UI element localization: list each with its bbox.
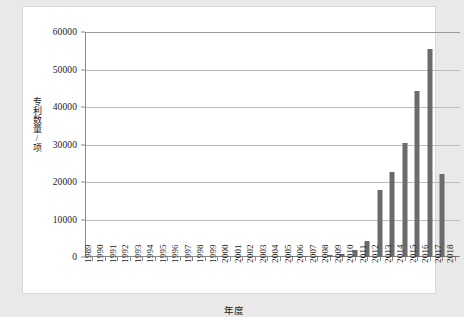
y-axis-tick-labels: 0100002000030000400005000060000 xyxy=(23,7,85,258)
x-axis-tick-labels: 1989199019911992199319941995199619971998… xyxy=(86,263,460,299)
x-axis-tick-label: 1992 xyxy=(120,244,130,263)
y-axis-tick-label: 10000 xyxy=(53,215,77,225)
y-axis-tick-label: 20000 xyxy=(53,177,77,187)
x-axis-tick-label: 2004 xyxy=(270,244,280,263)
x-axis-tick-label: 2001 xyxy=(233,244,243,263)
x-axis-tick-label: 1998 xyxy=(195,244,205,263)
x-axis-tick-label: 2013 xyxy=(383,244,393,263)
x-axis-tick-label: 1996 xyxy=(170,244,180,263)
bar xyxy=(427,49,432,257)
y-axis-tick-label: 60000 xyxy=(53,27,77,37)
y-axis-tick-label: 40000 xyxy=(53,102,77,112)
x-axis-tick-label: 2012 xyxy=(370,244,380,263)
x-axis-tick-label: 1993 xyxy=(133,244,143,263)
y-axis-tick-label: 50000 xyxy=(53,65,77,75)
x-axis-tick-label: 2018 xyxy=(445,244,455,263)
x-axis-tick-label: 1999 xyxy=(208,244,218,263)
x-axis-tick-label: 2016 xyxy=(420,244,430,263)
x-axis-tick-label: 2005 xyxy=(283,244,293,263)
x-axis-tick-label: 2017 xyxy=(433,244,443,263)
x-axis-tick-label: 1994 xyxy=(145,244,155,263)
x-axis-tick-label: 2015 xyxy=(408,244,418,263)
bar-series xyxy=(86,32,460,257)
bar xyxy=(415,91,420,257)
x-axis-tick-label: 2010 xyxy=(345,244,355,263)
bar xyxy=(402,143,407,257)
x-axis-title: 年度 xyxy=(224,303,244,317)
x-axis-tick-label: 2009 xyxy=(333,244,343,263)
x-axis-tick-label: 2011 xyxy=(358,245,368,263)
x-axis-tick-label: 2007 xyxy=(308,244,318,263)
x-axis-tick-label: 1989 xyxy=(83,244,93,263)
x-axis-tick-label: 1995 xyxy=(158,244,168,263)
x-axis-tick-label: 2002 xyxy=(245,244,255,263)
x-axis-tick-label: 1997 xyxy=(183,244,193,263)
x-axis-tick-label: 2006 xyxy=(295,244,305,263)
x-axis-title-wrap: 年度 xyxy=(23,303,464,317)
chart-panel: 专利数量/项 0100002000030000400005000060000 1… xyxy=(22,6,436,294)
x-axis-tick-label: 1991 xyxy=(108,244,118,263)
x-axis-tick-label: 1990 xyxy=(95,244,105,263)
x-axis-tick-label: 2003 xyxy=(258,244,268,263)
y-axis-tick-label: 30000 xyxy=(53,140,77,150)
x-axis-tick-label: 2000 xyxy=(220,244,230,263)
y-axis-tick-label: 0 xyxy=(72,252,77,262)
x-axis-tick-label: 2014 xyxy=(395,244,405,263)
x-axis-tick-label: 2008 xyxy=(320,244,330,263)
